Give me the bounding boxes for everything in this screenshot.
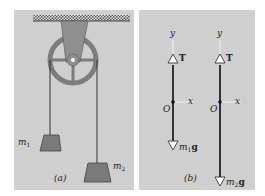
mass-2-label: m2 [113,162,125,172]
tension-label-1: T [179,54,186,63]
origin-point-2 [218,100,222,104]
mass-1 [40,135,61,151]
origin-point-1 [171,100,175,104]
weight-arrow-2 [215,177,225,186]
caption-a: (a) [54,174,66,183]
weight-label-2: m2g [226,178,245,188]
pulley-axle-icon [71,58,75,62]
x-axis-label-1: x [188,97,193,106]
ceiling-support [33,15,130,21]
y-axis-label-1: y [170,29,175,38]
tension-arrow-2 [215,54,225,63]
weight-label-1: m1g [179,143,198,153]
x-axis-label-2: x [235,97,240,106]
mass-1-label: m1 [18,138,30,148]
caption-b: (b) [184,174,197,183]
origin-label-1: O [163,105,170,114]
panel-a-atwood-machine: m1 m2 (a) [14,10,134,190]
weight-arrow-1 [168,141,178,150]
mass-2 [84,163,111,182]
tension-label-2: T [226,54,233,63]
origin-label-2: O [210,105,217,114]
tension-arrow-1 [168,54,178,63]
panel-b-free-body-diagrams: y T x O m1g y T x O m2g (b) [139,10,255,190]
y-axis-label-2: y [217,29,222,38]
